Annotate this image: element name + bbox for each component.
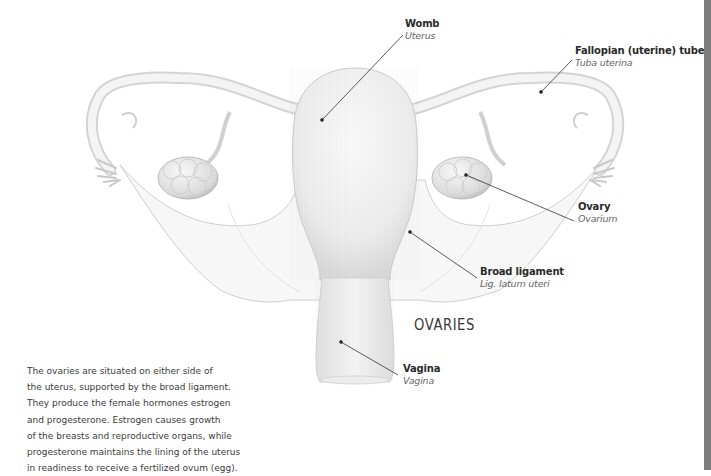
page-edge-bar: [704, 0, 711, 470]
label-womb-name: Womb: [405, 18, 439, 30]
label-broad-ligament: Broad ligament Lig. latum uteri: [480, 266, 564, 290]
description-text: The ovaries are situated on either side …: [27, 363, 297, 476]
label-ovary-name: Ovary: [578, 201, 617, 213]
label-broad-ligament-latin: Lig. latum uteri: [480, 278, 564, 290]
label-vagina-name: Vagina: [403, 363, 440, 375]
label-vagina-latin: Vagina: [403, 375, 440, 387]
label-fallopian-tube: Fallopian (uterine) tube Tuba uterina: [575, 45, 704, 69]
vagina-shape: [316, 278, 394, 384]
label-ovary: Ovary Ovarium: [578, 201, 617, 225]
label-ovary-latin: Ovarium: [578, 213, 617, 225]
description-line: in readiness to receive a fertilized ovu…: [27, 460, 297, 476]
right-ovary-shape: [432, 157, 492, 199]
label-womb: Womb Uterus: [405, 18, 439, 42]
description-line: They produce the female hormones estroge…: [27, 395, 297, 411]
description-line: of the breasts and reproductive organs, …: [27, 428, 297, 444]
uterus-shape: [290, 68, 420, 280]
label-fallopian-tube-latin: Tuba uterina: [575, 57, 704, 69]
diagram-title: OVARIES: [414, 316, 475, 334]
leader-line-ovary: [466, 175, 574, 221]
label-womb-latin: Uterus: [405, 30, 439, 42]
label-broad-ligament-name: Broad ligament: [480, 266, 564, 278]
label-vagina: Vagina Vagina: [403, 363, 440, 387]
label-fallopian-tube-name: Fallopian (uterine) tube: [575, 45, 704, 57]
description-line: progesterone maintains the lining of the…: [27, 444, 297, 460]
description-line: and progesterone. Estrogen causes growth: [27, 412, 297, 428]
description-line: the uterus, supported by the broad ligam…: [27, 379, 297, 395]
left-ovary-shape: [158, 157, 218, 199]
description-line: The ovaries are situated on either side …: [27, 363, 297, 379]
